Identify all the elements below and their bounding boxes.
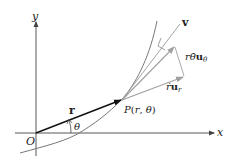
radial-label: ṙur (166, 81, 182, 94)
velocity-label: v (181, 16, 189, 29)
transverse-label: rθ̇uθ (185, 51, 208, 64)
polar-velocity-diagram: y x O r θ P(r, θ) v rθ̇uθ ṙur (0, 0, 233, 163)
component-connector (175, 47, 184, 76)
x-axis-label: x (217, 126, 224, 139)
angle-label: θ (74, 121, 80, 132)
position-vector-label: r (69, 104, 75, 117)
y-axis-label: y (31, 10, 39, 23)
point-label: P(r, θ) (123, 104, 156, 115)
right-angle-mark (158, 38, 165, 50)
origin-label: O (26, 135, 35, 148)
angle-arc (69, 120, 71, 133)
transverse-vector (122, 47, 174, 100)
